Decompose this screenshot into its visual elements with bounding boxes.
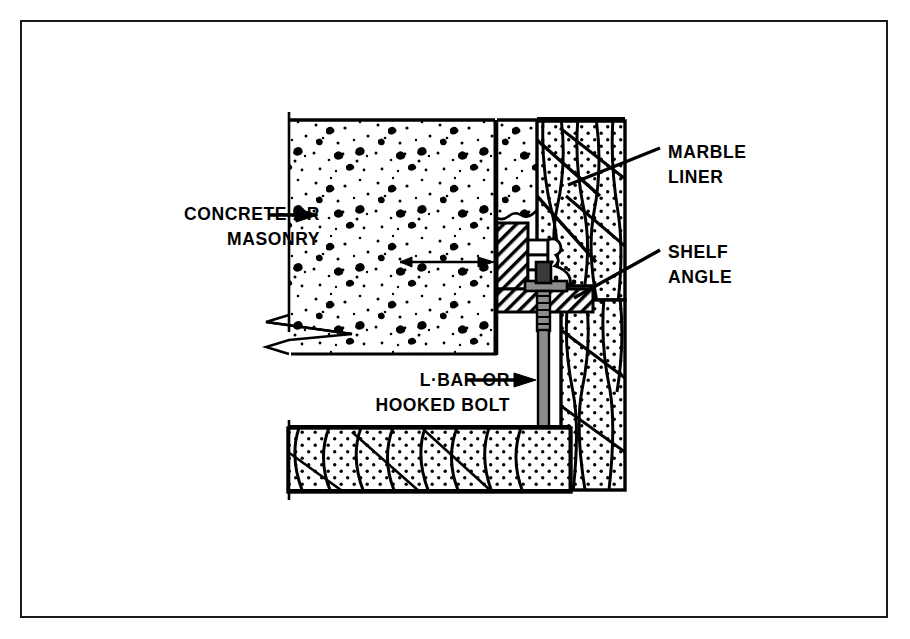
label-shelf-angle: SHELF ANGLE <box>668 240 868 290</box>
label-marble-liner: MARBLE LINER <box>668 140 868 190</box>
figure-page: CONCRETE OR MASONRY MARBLE LINER SHELF A… <box>0 0 910 639</box>
label-lbar-or-hooked-bolt: L·BAR OR HOOKED BOLT <box>300 368 510 418</box>
marble-slab-lower <box>288 420 571 500</box>
section-drawing <box>0 0 910 639</box>
label-concrete-or-masonry: CONCRETE OR MASONRY <box>0 202 320 252</box>
